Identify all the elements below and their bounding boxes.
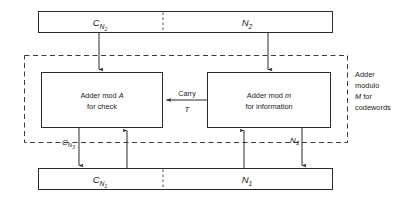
boundary-note-line1: Adder (355, 70, 375, 79)
bottom-codeword-bar (39, 169, 333, 190)
adder-mod-m-box (208, 73, 331, 128)
check-feedback-label: CN3 (62, 138, 75, 150)
top-codeword-bar (39, 12, 333, 33)
adder-mod-m-line2: for information (245, 102, 292, 111)
block-diagram: CN2 N2 CN1 N1 Adder mod A for check Adde… (0, 0, 418, 199)
info-feedback-label: N3 (290, 136, 300, 146)
adder-mod-a-line2: for check (87, 102, 117, 111)
boundary-note-line3: M for (355, 92, 372, 101)
boundary-note-line4: codewords (355, 103, 391, 112)
carry-symbol-t: T (185, 105, 191, 114)
adder-mod-a-line1: Adder mod A (80, 91, 123, 100)
adder-mod-m-line1: Adder mod m (247, 91, 291, 100)
diagram-canvas: CN2 N2 CN1 N1 Adder mod A for check Adde… (0, 0, 418, 199)
boundary-note-line2: modulo (355, 81, 379, 90)
adder-mod-a-box (42, 73, 163, 128)
carry-label: Carry (178, 89, 196, 98)
